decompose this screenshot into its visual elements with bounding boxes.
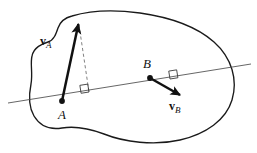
velocity-vector-a-arrow: [62, 24, 78, 101]
velocity-a-subscript: A: [46, 40, 52, 50]
diagram-canvas: [0, 0, 257, 153]
point-b-label: B: [143, 57, 151, 70]
dashed-perpendicular-line: [79, 25, 89, 92]
point-b-marker: [147, 75, 153, 81]
right-angle-marker-perpendicular: [80, 84, 89, 93]
velocity-b-subscript: B: [175, 105, 181, 115]
velocity-vector-a-label: vA: [40, 35, 52, 50]
velocity-vector-b-label: vB: [169, 100, 181, 115]
construction-line-AB: [8, 64, 251, 103]
point-a-marker: [59, 98, 65, 104]
rigid-body-outline: [29, 11, 234, 143]
right-angle-marker-at-B: [169, 70, 178, 79]
point-a-label: A: [58, 108, 66, 121]
figure-root: A B vA vB: [0, 0, 257, 153]
velocity-vector-b-arrow: [150, 78, 180, 95]
